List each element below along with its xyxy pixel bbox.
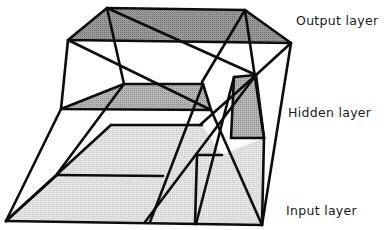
output-layer-label: Output layer <box>296 13 378 28</box>
hidden-layer-label: Hidden layer <box>288 105 371 120</box>
network-diagram: Output layer Hidden layer Input layer <box>0 0 385 230</box>
input-layer-label: Input layer <box>286 203 357 218</box>
